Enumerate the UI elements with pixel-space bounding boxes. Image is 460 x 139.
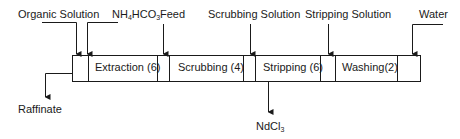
nh4hco3-part: NH	[112, 8, 128, 20]
water-label: Water	[419, 8, 448, 21]
nh4hco3-arrow	[88, 23, 119, 55]
scrubbing-solution-label: Scrubbing Solution	[208, 8, 300, 21]
organic-solution-arrow	[42, 23, 77, 55]
stage-scrubbing: Scrubbing (4)	[178, 61, 244, 74]
nh4hco3-label: NH4HCO3	[112, 8, 160, 21]
stage-stripping: Stripping (6)	[263, 61, 323, 74]
ndcl3-label: NdCl3	[256, 120, 284, 133]
stage-extraction: Extraction (6)	[95, 61, 160, 74]
ndcl3-part: NdCl	[256, 120, 280, 132]
raffinate-arrow	[46, 74, 73, 98]
stripping-solution-label: Stripping Solution	[305, 8, 391, 21]
stage-washing: Washing(2)	[342, 61, 398, 74]
feed-label: Feed	[160, 8, 185, 21]
nh4hco3-part: HCO	[132, 8, 156, 20]
ndcl3-sub: 3	[280, 126, 284, 133]
raffinate-label: Raffinate	[18, 103, 62, 116]
water-arrow	[413, 25, 444, 55]
organic-solution-label: Organic Solution	[18, 8, 99, 21]
